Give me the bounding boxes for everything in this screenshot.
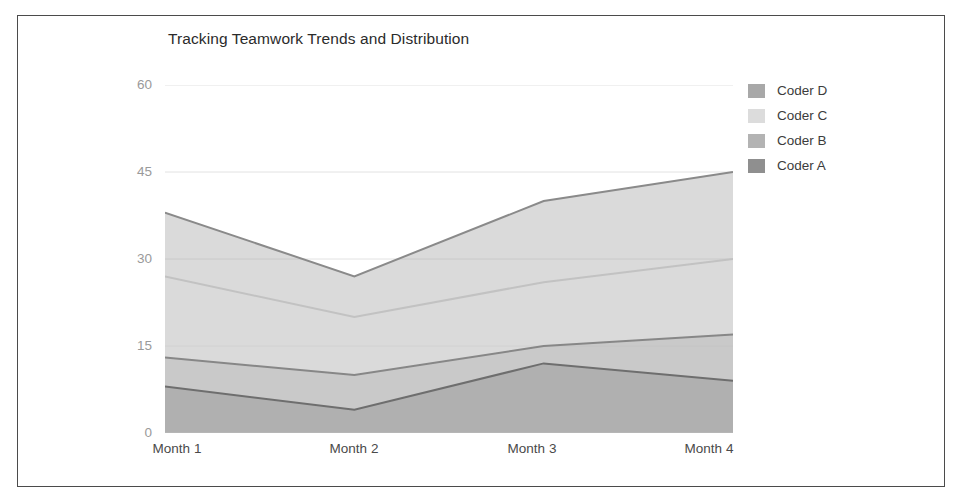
- chart-title: Tracking Teamwork Trends and Distributio…: [168, 30, 469, 48]
- stacked-area-chart: [165, 85, 733, 433]
- legend-label-coder-c: Coder C: [777, 108, 827, 123]
- y-axis-tick-30: 30: [112, 251, 152, 266]
- y-axis-tick-0: 0: [112, 425, 152, 440]
- legend-swatch-coder-a: [748, 159, 765, 173]
- x-axis-tick-month-4: Month 4: [685, 441, 734, 456]
- legend-label-coder-b: Coder B: [777, 133, 827, 148]
- legend-item-coder-c[interactable]: Coder C: [748, 103, 827, 128]
- legend-item-coder-a[interactable]: Coder A: [748, 153, 827, 178]
- chart-legend: Coder D Coder C Coder B Coder A: [748, 78, 827, 178]
- y-axis-tick-45: 45: [112, 164, 152, 179]
- plot-area: [165, 85, 733, 433]
- legend-label-coder-a: Coder A: [777, 158, 826, 173]
- legend-item-coder-b[interactable]: Coder B: [748, 128, 827, 153]
- y-axis-tick-60: 60: [112, 77, 152, 92]
- y-axis-tick-15: 15: [112, 338, 152, 353]
- legend-item-coder-d[interactable]: Coder D: [748, 78, 827, 103]
- legend-swatch-coder-c: [748, 109, 765, 123]
- x-axis-tick-month-3: Month 3: [508, 441, 557, 456]
- chart-screenshot: Tracking Teamwork Trends and Distributio…: [0, 0, 961, 502]
- legend-swatch-coder-d: [748, 84, 765, 98]
- legend-swatch-coder-b: [748, 134, 765, 148]
- x-axis-tick-month-1: Month 1: [153, 441, 202, 456]
- x-axis-tick-month-2: Month 2: [330, 441, 379, 456]
- legend-label-coder-d: Coder D: [777, 83, 827, 98]
